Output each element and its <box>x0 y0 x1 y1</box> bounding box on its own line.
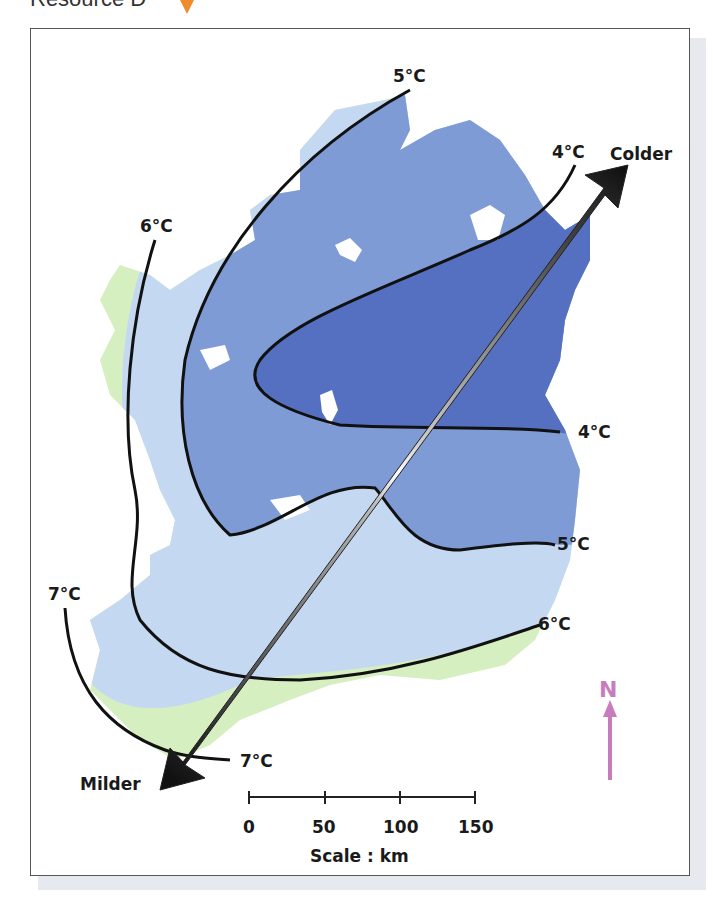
temperature-map: 5°C 4°C 6°C 4°C 5°C 6°C 7°C 7°C Colder M… <box>0 0 713 906</box>
colder-label: Colder <box>610 144 673 164</box>
isotherm-label-7c-south: 7°C <box>240 751 273 771</box>
north-arrow-icon <box>603 700 617 780</box>
north-label: N <box>599 677 617 702</box>
isotherm-label-5c-east: 5°C <box>557 534 590 554</box>
isotherm-label-5c-top: 5°C <box>393 66 426 86</box>
scale-tick-0: 0 <box>243 817 255 837</box>
island-land <box>0 0 713 906</box>
isotherm-label-6c-se: 6°C <box>538 614 571 634</box>
scale-bar <box>249 791 475 804</box>
isotherm-label-7c-sw: 7°C <box>48 584 81 604</box>
scale-tick-100: 100 <box>383 817 419 837</box>
scale-caption: Scale : km <box>310 846 409 866</box>
scale-tick-150: 150 <box>458 817 494 837</box>
isotherm-label-6c-nw: 6°C <box>140 216 173 236</box>
milder-label: Milder <box>80 774 141 794</box>
isotherm-label-4c-ne: 4°C <box>552 142 585 162</box>
isotherm-label-4c-east: 4°C <box>578 422 611 442</box>
scale-tick-50: 50 <box>312 817 336 837</box>
